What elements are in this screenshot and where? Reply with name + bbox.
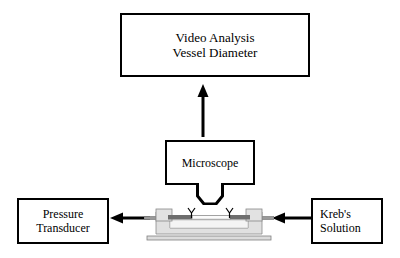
video-analysis-line-1: Video Analysis	[175, 30, 254, 45]
pressure-transducer-line-1: Pressure	[43, 207, 84, 221]
microscope-box-bottom-left-edge	[165, 183, 198, 185]
krebs-solution-box[interactable]: Kreb's Solution	[311, 198, 383, 244]
vessel-segment-left	[168, 215, 192, 220]
vessel-segment-right	[230, 215, 250, 220]
video-analysis-box[interactable]: Video Analysis Vessel Diameter	[120, 13, 310, 77]
krebs-solution-line-1: Kreb's	[320, 207, 351, 221]
microscope-box-bottom-right-edge	[222, 183, 255, 185]
krebs-solution-line-2: Solution	[320, 221, 361, 235]
arrow-krebs-to-chamber-icon	[272, 211, 311, 225]
diagram-canvas: Video Analysis Vessel Diameter Microscop…	[0, 0, 400, 258]
video-analysis-line-2: Vessel Diameter	[173, 45, 258, 60]
arrow-microscope-to-video-icon	[196, 84, 210, 137]
base-plate	[147, 236, 271, 240]
chamber-bath	[170, 220, 248, 228]
microscope-label: Microscope	[182, 156, 239, 170]
pressure-transducer-box[interactable]: Pressure Transducer	[17, 198, 109, 244]
microscope-box[interactable]: Microscope	[165, 140, 255, 185]
vessel-segment-middle	[192, 215, 230, 219]
vessel-chamber-apparatus	[144, 200, 274, 244]
pressure-transducer-line-2: Transducer	[36, 221, 90, 235]
